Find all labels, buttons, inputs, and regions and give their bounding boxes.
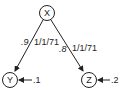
node-x-label: X xyxy=(39,5,55,21)
edge-x-y-weight: .9 xyxy=(21,38,29,47)
node-y-label: Y xyxy=(2,72,18,88)
node-z-label: Z xyxy=(81,72,97,88)
input-y-value: .1 xyxy=(33,76,41,85)
edge-x-y-date: 1/1/71 xyxy=(34,38,59,47)
edge-x-z-weight: .8 xyxy=(59,45,67,54)
input-z-value: .2 xyxy=(111,76,119,85)
edge-x-z-date: 1/1/71 xyxy=(72,44,97,53)
